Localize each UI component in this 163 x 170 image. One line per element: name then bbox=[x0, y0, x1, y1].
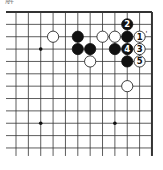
star-point bbox=[113, 121, 117, 125]
black-stone bbox=[122, 56, 133, 67]
white-stone: 3 bbox=[134, 43, 145, 54]
white-stone bbox=[85, 56, 96, 67]
white-stone bbox=[47, 31, 58, 42]
black-stone bbox=[85, 43, 96, 54]
go-board: 21435' bbox=[0, 0, 163, 170]
move-number: 2 bbox=[124, 19, 130, 29]
black-stone bbox=[109, 43, 120, 54]
move-number: 4 bbox=[124, 44, 130, 54]
white-stone bbox=[122, 81, 133, 92]
black-stone bbox=[122, 31, 133, 42]
black-stone: 4 bbox=[122, 43, 133, 54]
white-stone: 5 bbox=[134, 56, 145, 67]
black-stone: 2 bbox=[122, 19, 133, 30]
white-stone bbox=[97, 31, 108, 42]
black-stone bbox=[72, 43, 83, 54]
move-number: 3 bbox=[137, 44, 143, 54]
move-number: 5 bbox=[137, 56, 143, 66]
move-number: 1 bbox=[137, 32, 143, 42]
white-stone: 1 bbox=[134, 31, 145, 42]
star-point bbox=[39, 47, 43, 51]
star-point bbox=[39, 121, 43, 125]
white-stone bbox=[109, 31, 120, 42]
annotation-mark: ' bbox=[146, 30, 148, 38]
black-stone bbox=[72, 31, 83, 42]
